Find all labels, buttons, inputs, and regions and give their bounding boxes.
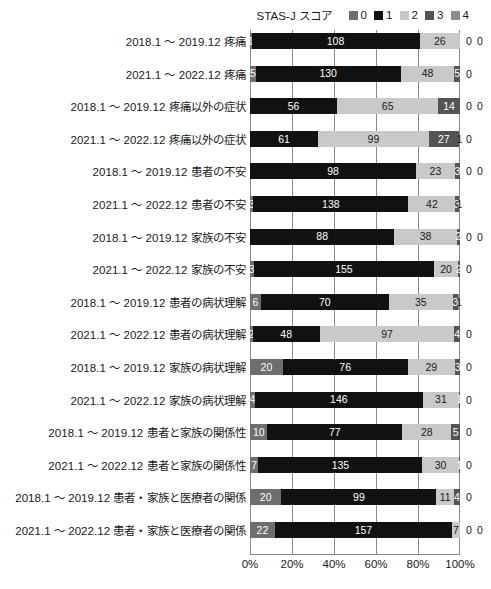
legend-swatch-icon-0 [349, 11, 358, 20]
bar-segment-score-1: 77 [267, 424, 402, 440]
segment-value-outside: 0 [466, 33, 472, 49]
legend-items: 01234 [342, 9, 470, 21]
segment-value-outside: 0 [466, 66, 472, 82]
segment-value: 14 [443, 101, 455, 112]
bar-segment-score-3: 3 [455, 163, 460, 179]
stacked-bar: 98233 [250, 163, 460, 179]
x-tick-label: 60% [364, 558, 387, 570]
legend-label: 1 [386, 9, 393, 21]
segment-value: 38 [420, 231, 432, 242]
segment-value: 35 [415, 297, 427, 308]
segment-value: 157 [355, 525, 373, 536]
legend-label: 4 [463, 9, 470, 21]
category-label: 2021.1 ～ 2022.12 家族の不安 [0, 261, 246, 277]
legend-item-2: 2 [400, 9, 419, 21]
legend-item-0: 0 [349, 9, 368, 21]
segment-value: 29 [425, 362, 437, 373]
legend-swatch-icon-2 [400, 11, 409, 20]
bar-segment-score-1: 70 [261, 294, 389, 310]
bar-segment-score-0: 22 [250, 522, 275, 538]
category-axis-labels: 2018.1 ～ 2019.12 疼痛2021.1 ～ 2022.12 疼痛20… [0, 30, 246, 555]
bar-segment-score-2: 97 [320, 326, 455, 342]
segment-value: 20 [440, 264, 452, 275]
bar-segment-score-2: 99 [318, 131, 429, 147]
segment-value-outside: 0 [466, 131, 472, 147]
category-label: 2021.1 ～ 2022.12 疼痛以外の症状 [0, 131, 246, 147]
segment-value-outside: 0 [466, 424, 472, 440]
stacked-bar: 88382 [250, 229, 460, 245]
segment-value: 2 [455, 231, 461, 242]
bar-segment-score-3: 5 [451, 424, 460, 440]
stacked-bar: 7135301 [250, 457, 460, 473]
bar-segment-score-1: 135 [258, 457, 422, 473]
bar-segment-score-1: 157 [275, 522, 452, 538]
segment-value: 1 [456, 394, 462, 405]
legend-item-3: 3 [425, 9, 444, 21]
category-label: 2018.1 ～ 2019.12 患者の病状理解 [0, 294, 246, 310]
bar-segment-score-2: 20 [434, 261, 457, 277]
stacked-bar: 5130485 [250, 66, 460, 82]
segment-value: 10 [253, 427, 265, 438]
segment-value: 20 [260, 492, 272, 503]
segment-value: 1 [457, 134, 463, 145]
bar-segment-score-1: 88 [250, 229, 394, 245]
segment-value: 7 [453, 525, 459, 536]
stacked-bar: 6199271 [250, 131, 460, 147]
segment-value: 42 [426, 199, 438, 210]
legend-label: 2 [412, 9, 419, 21]
legend-item-4: 4 [451, 9, 470, 21]
bar-segment-score-2: 7 [452, 522, 460, 538]
segment-value: 56 [288, 101, 300, 112]
segment-value: 5 [453, 427, 459, 438]
segment-value: 88 [316, 231, 328, 242]
segment-value: 4 [454, 329, 460, 340]
category-label: 2018.1 ～ 2019.12 患者・家族と医療者の関係 [0, 489, 246, 505]
bar-segment-score-3: 5 [454, 66, 460, 82]
bar-segment-score-3: 14 [438, 98, 460, 114]
bar-segment-score-1: 155 [254, 261, 435, 277]
category-label: 2021.1 ～ 2022.12 患者・家族と医療者の関係 [0, 522, 246, 538]
segment-value: 99 [368, 134, 380, 145]
bar-segment-score-2: 65 [337, 98, 438, 114]
stacked-bar: 6703531 [250, 294, 460, 310]
bar-segment-score-0: 6 [250, 294, 261, 310]
x-tick-label: 40% [322, 558, 345, 570]
bar-segment-score-1: 108 [252, 33, 420, 49]
segment-value: 48 [422, 68, 434, 79]
segment-value-outside: 0 [466, 457, 472, 473]
segment-value: 1 [456, 460, 462, 471]
stacked-bar: 3155202 [250, 261, 460, 277]
x-axis-line [250, 554, 460, 555]
segment-value: 11 [440, 492, 451, 503]
category-label: 2021.1 ～ 2022.12 患者の不安 [0, 196, 246, 212]
segment-value: 2 [456, 264, 462, 275]
bar-row: 31384231 [250, 196, 460, 212]
legend-swatch-icon-3 [425, 11, 434, 20]
category-label: 2018.1 ～ 2019.12 疼痛 [0, 33, 246, 49]
category-label: 2018.1 ～ 2019.12 家族の病状理解 [0, 359, 246, 375]
bar-segment-score-2: 35 [389, 294, 453, 310]
stacked-bar: 221577 [250, 522, 460, 538]
bar-segment-score-1: 138 [253, 196, 408, 212]
bar-row: 20991140 [250, 489, 460, 505]
stacked-bar: 248974 [250, 326, 460, 342]
segment-value: 30 [435, 460, 447, 471]
bar-segment-score-2: 48 [401, 66, 455, 82]
bar-row: 41463110 [250, 392, 460, 408]
bar-segment-score-1: 146 [255, 392, 423, 408]
legend-swatch-icon-4 [451, 11, 460, 20]
bar-segment-score-2: 38 [394, 229, 456, 245]
bar-row: 2489740 [250, 326, 460, 342]
x-tick-label: 100% [445, 558, 474, 570]
segment-value-outside: 0 [477, 522, 483, 538]
bar-row: 71353010 [250, 457, 460, 473]
bar-segment-score-3: 1 [459, 457, 460, 473]
bar-row: 56651400 [250, 98, 460, 114]
stacked-bar: 110826 [250, 33, 460, 49]
category-label: 2018.1 ～ 2019.12 家族の不安 [0, 229, 246, 245]
legend-label: 0 [361, 9, 368, 21]
bar-segment-score-2: 31 [423, 392, 459, 408]
segment-value: 4 [454, 492, 460, 503]
segment-value: 28 [421, 427, 433, 438]
segment-value-outside: 0 [477, 33, 483, 49]
